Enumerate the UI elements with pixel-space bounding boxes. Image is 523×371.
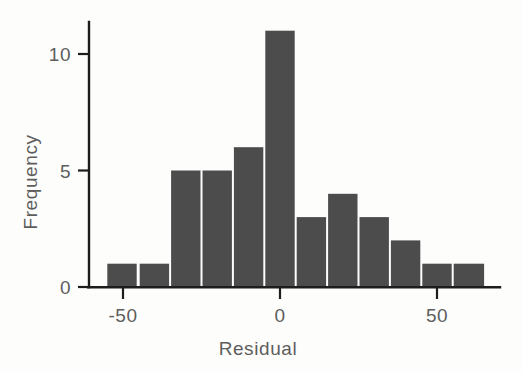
y-tick-label: 10	[49, 44, 71, 65]
histogram-bar	[203, 171, 232, 288]
histogram-bar	[422, 264, 451, 287]
histogram-bar	[391, 240, 420, 287]
x-axis-title: Residual	[219, 338, 298, 359]
histogram-bar	[454, 264, 484, 287]
x-axis-ticks: -50050	[109, 287, 449, 326]
histogram-bar	[234, 147, 263, 287]
histogram-bar	[265, 31, 294, 287]
histogram-bar	[297, 217, 326, 287]
histogram-bar	[107, 264, 136, 287]
x-tick-label: -50	[109, 305, 138, 326]
histogram-bar	[328, 194, 357, 287]
x-tick-label: 0	[274, 305, 285, 326]
histogram-figure: 0510 -50050 Residual Frequency	[0, 0, 523, 371]
bars-group	[107, 31, 484, 287]
histogram-bar	[140, 264, 169, 287]
histogram-bar	[171, 171, 200, 288]
y-tick-label: 0	[60, 277, 71, 298]
y-axis-title: Frequency	[20, 134, 41, 229]
histogram-bar	[360, 217, 389, 287]
y-axis-ticks: 0510	[49, 44, 89, 298]
histogram-plot: 0510 -50050 Residual Frequency	[0, 0, 523, 371]
x-tick-label: 50	[426, 305, 448, 326]
y-tick-label: 5	[60, 161, 71, 182]
